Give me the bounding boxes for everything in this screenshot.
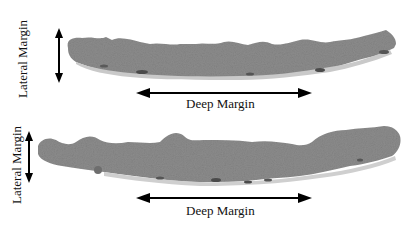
lateral-margin-label-bottom: Lateral Margin	[9, 126, 25, 204]
lateral-margin-arrow-bottom	[25, 131, 33, 183]
deep-margin-label-bottom: Deep Margin	[186, 203, 255, 219]
deep-margin-arrow-bottom	[136, 193, 312, 203]
lateral-margin-label-top: Lateral Margin	[15, 20, 31, 98]
figure-panel-top: Lateral Margin Deep Margin	[0, 0, 419, 112]
figure-panel-bottom: Lateral Margin Deep Margin	[0, 112, 419, 230]
lateral-margin-arrow-top	[55, 28, 63, 83]
deep-margin-label-top: Deep Margin	[186, 96, 255, 112]
